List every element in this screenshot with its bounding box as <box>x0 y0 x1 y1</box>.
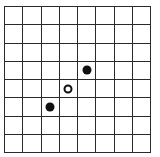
board-cell-r6-c0[interactable] <box>4 116 22 134</box>
board-cell-r6-c6[interactable] <box>114 116 132 134</box>
board-cell-r7-c0[interactable] <box>4 134 22 152</box>
board-cell-r7-c4[interactable] <box>77 134 95 152</box>
board-cell-r6-c3[interactable] <box>59 116 77 134</box>
board-cell-r6-c4[interactable] <box>77 116 95 134</box>
board-cell-r5-c7[interactable] <box>132 97 150 115</box>
board-cell-r4-c3[interactable] <box>59 79 77 97</box>
board-cell-r7-c5[interactable] <box>95 134 113 152</box>
board-cell-r1-c1[interactable] <box>22 24 40 42</box>
board-cell-r0-c1[interactable] <box>22 6 40 24</box>
board-cell-r4-c0[interactable] <box>4 79 22 97</box>
board-cell-r1-c7[interactable] <box>132 24 150 42</box>
board-cell-r5-c6[interactable] <box>114 97 132 115</box>
white-piece-icon <box>64 84 73 93</box>
board-cell-r0-c5[interactable] <box>95 6 113 24</box>
board-cell-r2-c3[interactable] <box>59 43 77 61</box>
board-cell-r5-c2[interactable] <box>41 97 59 115</box>
board-cell-r3-c0[interactable] <box>4 61 22 79</box>
board-cell-r0-c4[interactable] <box>77 6 95 24</box>
board-cell-r5-c1[interactable] <box>22 97 40 115</box>
board-cell-r4-c7[interactable] <box>132 79 150 97</box>
board-cell-r3-c2[interactable] <box>41 61 59 79</box>
board-cell-r5-c3[interactable] <box>59 97 77 115</box>
black-piece-icon <box>82 66 91 75</box>
board-cell-r0-c6[interactable] <box>114 6 132 24</box>
board-cell-r6-c7[interactable] <box>132 116 150 134</box>
board-cell-r3-c7[interactable] <box>132 61 150 79</box>
board-cell-r2-c7[interactable] <box>132 43 150 61</box>
board-cell-r2-c1[interactable] <box>22 43 40 61</box>
board-cell-r7-c7[interactable] <box>132 134 150 152</box>
board-cell-r2-c6[interactable] <box>114 43 132 61</box>
board-cell-r0-c3[interactable] <box>59 6 77 24</box>
board-cell-r5-c5[interactable] <box>95 97 113 115</box>
board-cell-r2-c5[interactable] <box>95 43 113 61</box>
board-cell-r4-c4[interactable] <box>77 79 95 97</box>
board-cell-r3-c1[interactable] <box>22 61 40 79</box>
board-cell-r1-c0[interactable] <box>4 24 22 42</box>
board-cell-r3-c3[interactable] <box>59 61 77 79</box>
board-cell-r3-c5[interactable] <box>95 61 113 79</box>
board-cell-r3-c4[interactable] <box>77 61 95 79</box>
board-cell-r7-c6[interactable] <box>114 134 132 152</box>
board-cell-r7-c2[interactable] <box>41 134 59 152</box>
board-cell-r7-c1[interactable] <box>22 134 40 152</box>
board-cell-r2-c4[interactable] <box>77 43 95 61</box>
black-piece-icon <box>46 102 55 111</box>
board-cell-r3-c6[interactable] <box>114 61 132 79</box>
game-board-grid <box>4 6 151 153</box>
board-cell-r1-c4[interactable] <box>77 24 95 42</box>
board-cell-r5-c0[interactable] <box>4 97 22 115</box>
board-cell-r6-c1[interactable] <box>22 116 40 134</box>
board-cell-r4-c6[interactable] <box>114 79 132 97</box>
board-cell-r2-c0[interactable] <box>4 43 22 61</box>
board-cell-r0-c7[interactable] <box>132 6 150 24</box>
board-cell-r7-c3[interactable] <box>59 134 77 152</box>
board-cell-r1-c6[interactable] <box>114 24 132 42</box>
board-cell-r5-c4[interactable] <box>77 97 95 115</box>
board-cell-r4-c2[interactable] <box>41 79 59 97</box>
board-cell-r0-c2[interactable] <box>41 6 59 24</box>
board-cell-r4-c1[interactable] <box>22 79 40 97</box>
board-cell-r6-c5[interactable] <box>95 116 113 134</box>
board-cell-r4-c5[interactable] <box>95 79 113 97</box>
board-cell-r1-c3[interactable] <box>59 24 77 42</box>
board-cell-r2-c2[interactable] <box>41 43 59 61</box>
board-cell-r1-c2[interactable] <box>41 24 59 42</box>
board-cell-r1-c5[interactable] <box>95 24 113 42</box>
board-cell-r0-c0[interactable] <box>4 6 22 24</box>
board-cell-r6-c2[interactable] <box>41 116 59 134</box>
